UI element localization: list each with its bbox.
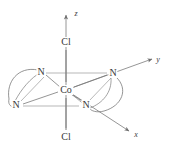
atom-label-nitrogen-upper-left: N [36,67,45,77]
atom-label-nitrogen-lower-left: N [11,100,20,110]
atom-label-chlorine-bottom: Cl [60,132,71,142]
edge-n-upperleft-lowerleft [21,77,44,101]
atom-label-nitrogen-lower-right: N [81,100,90,110]
chelate-right-curve-inner [90,78,111,108]
bond-co-n-upper-right [74,75,107,87]
axis-label-x: x [134,131,138,139]
axis-x-line [66,90,129,131]
axis-label-y: y [156,56,160,64]
atom-label-nitrogen-upper-right: N [108,68,117,78]
axis-label-z: z [74,10,77,18]
structure-drawing [0,0,170,153]
atom-label-chlorine-top: Cl [60,37,71,47]
bond-co-n-upper-left [46,75,60,87]
chelate-left-curve-outer [9,69,38,99]
edge-n-upperright-lowerright [89,78,111,101]
atom-label-cobalt: Co [59,85,73,95]
axis-x [66,90,129,131]
chelate-ring-right [70,77,123,112]
molecular-structure-figure: Co Cl Cl N N N N z y x [0,0,170,153]
